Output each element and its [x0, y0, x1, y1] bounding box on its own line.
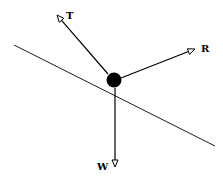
tension-label: T: [66, 10, 74, 21]
reaction-force-arrow: R: [121, 43, 210, 78]
reaction-label: R: [201, 43, 210, 54]
weight-label: W: [96, 161, 109, 172]
free-body-diagram: T R W: [0, 0, 223, 181]
arrowhead-icon: [187, 49, 195, 55]
mass-ball: [107, 73, 122, 88]
weight-force-arrow: W: [96, 88, 118, 172]
arrowhead-icon: [112, 160, 118, 167]
tension-force-arrow: T: [57, 10, 108, 74]
